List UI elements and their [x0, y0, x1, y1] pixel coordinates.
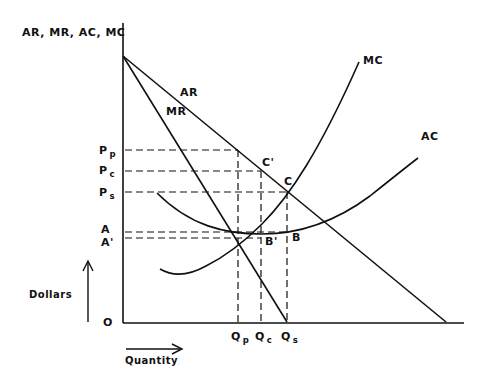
pp-main: P: [99, 144, 108, 157]
ar-label: AR: [180, 87, 198, 98]
qc-label: Qc: [255, 331, 272, 342]
pc-main: P: [99, 164, 108, 177]
qc-sub: c: [267, 335, 273, 345]
qc-main: Q: [255, 330, 265, 343]
qs-sub: s: [293, 335, 299, 345]
point-c-prime-label: C': [262, 157, 274, 168]
origin-label: O: [103, 317, 113, 328]
mr-label: MR: [166, 106, 186, 117]
point-b-prime-label: B': [265, 236, 278, 247]
y-axis-title: AR, MR, AC, MC: [22, 27, 125, 38]
ps-sub: s: [110, 191, 116, 201]
qp-label: Qp: [231, 331, 249, 342]
qs-main: Q: [281, 330, 291, 343]
point-b-label: B: [292, 232, 301, 243]
ps-label: Ps: [99, 187, 115, 198]
pc-label: Pc: [99, 165, 115, 176]
pp-label: Pp: [99, 145, 116, 156]
quantity-label: Quantity: [125, 356, 178, 366]
dollars-label: Dollars: [29, 290, 72, 300]
pp-sub: p: [110, 149, 117, 159]
qp-main: Q: [231, 330, 241, 343]
mc-label: MC: [363, 55, 383, 66]
ar-curve: [123, 56, 446, 322]
qp-sub: p: [243, 335, 250, 345]
cost-revenue-diagram: [0, 0, 483, 387]
ac-label: AC: [421, 131, 439, 142]
a-label: A: [101, 224, 110, 235]
qs-label: Qs: [281, 331, 298, 342]
mr-curve: [123, 56, 287, 322]
point-c-label: C: [284, 176, 293, 187]
pc-sub: c: [110, 169, 116, 179]
ps-main: P: [99, 186, 108, 199]
a-prime-label: A': [101, 237, 114, 248]
